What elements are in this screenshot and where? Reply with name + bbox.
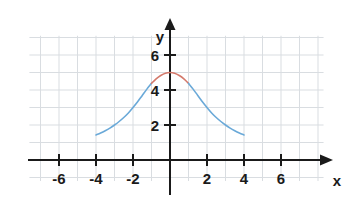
x-tick-label: -4 bbox=[89, 170, 103, 187]
y-tick-label: 6 bbox=[151, 47, 159, 64]
y-axis-tick-labels: 246 bbox=[151, 47, 160, 134]
plot-canvas: -6-4-2246 246 x y bbox=[0, 0, 347, 203]
x-tick-label: 4 bbox=[240, 170, 249, 187]
x-tick-label: 2 bbox=[203, 170, 211, 187]
y-tick-label: 2 bbox=[151, 117, 159, 134]
x-tick-label: 6 bbox=[277, 170, 285, 187]
y-tick-label: 4 bbox=[151, 82, 160, 99]
y-axis-label: y bbox=[156, 28, 165, 45]
chart-figure: -6-4-2246 246 x y bbox=[0, 0, 347, 203]
x-axis-label: x bbox=[333, 172, 342, 189]
x-tick-label: -2 bbox=[126, 170, 139, 187]
x-tick-label: -6 bbox=[52, 170, 65, 187]
